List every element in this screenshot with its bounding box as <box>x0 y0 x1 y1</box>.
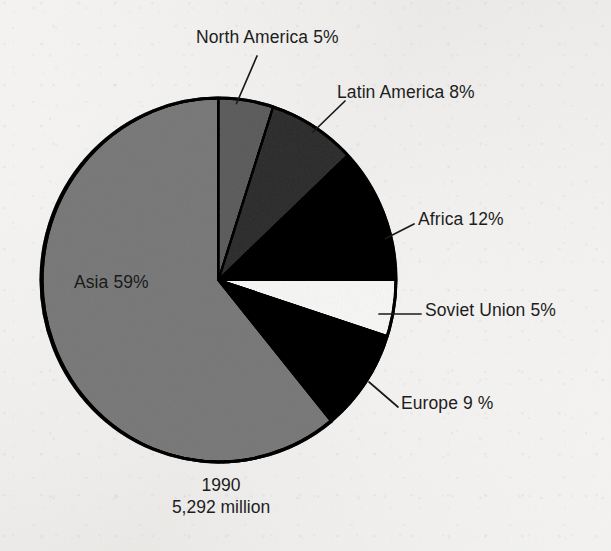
leader-line-latin-america <box>313 101 345 132</box>
caption-year: 1990 <box>126 474 316 496</box>
leader-line-europe <box>369 382 398 407</box>
pie-label-africa: Africa 12% <box>418 209 504 230</box>
leader-line-north-america <box>237 56 258 104</box>
chart-caption: 1990 5,292 million <box>126 474 316 518</box>
pie-label-north-america: North America 5% <box>196 27 339 48</box>
pie-label-europe: Europe 9 % <box>401 393 493 414</box>
pie-label-asia: Asia 59% <box>74 272 149 293</box>
pie-label-latin-america: Latin America 8% <box>337 82 475 103</box>
caption-total: 5,292 million <box>126 496 316 518</box>
pie-label-soviet-union: Soviet Union 5% <box>425 300 556 321</box>
